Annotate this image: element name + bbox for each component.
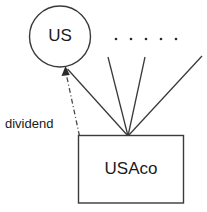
ellipsis-dot	[145, 38, 148, 41]
edge-label-dividend: dividend	[5, 116, 53, 131]
ellipsis-dot	[175, 38, 178, 41]
diagram-svg: US USAco dividend	[0, 0, 207, 212]
ellipsis-dot	[130, 38, 133, 41]
node-us-label: US	[48, 26, 72, 45]
ellipsis-dots-group	[115, 38, 178, 41]
node-usaco-label: USAco	[105, 159, 158, 178]
dividend-arrow-line	[66, 73, 80, 136]
ownership-line-3	[128, 56, 202, 136]
ellipsis-dot	[115, 38, 118, 41]
diagram-canvas: US USAco dividend	[0, 0, 207, 212]
ownership-line-2	[128, 57, 145, 136]
ellipsis-dot	[160, 38, 163, 41]
